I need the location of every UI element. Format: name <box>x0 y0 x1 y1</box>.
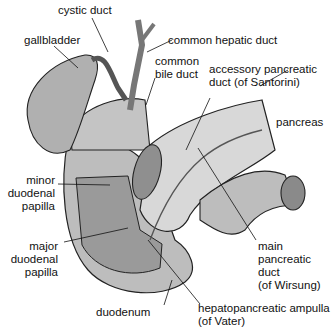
jejunum-opening <box>281 176 305 210</box>
common-hepatic-duct-shape <box>130 20 142 110</box>
label-main-pancreatic-duct: main pancreatic duct (of Wirsung) <box>258 240 321 292</box>
label-accessory-pancreatic-duct: accessory pancreatic duct (of Santorini) <box>209 63 317 89</box>
label-minor-duodenal-papilla: minor duodenal papilla <box>8 174 55 213</box>
label-common-hepatic-duct: common hepatic duct <box>168 34 277 47</box>
label-duodenum: duodenum <box>96 306 150 319</box>
label-cystic-duct: cystic duct <box>58 4 112 17</box>
label-hepatopancreatic-ampulla: hepatopancreatic ampulla (of Vater) <box>198 302 330 328</box>
label-major-duodenal-papilla: major duodenal papilla <box>11 240 58 279</box>
label-pancreas: pancreas <box>276 116 323 129</box>
label-gallbladder: gallbladder <box>24 34 80 47</box>
label-common-bile-duct: common bile duct <box>155 55 199 81</box>
